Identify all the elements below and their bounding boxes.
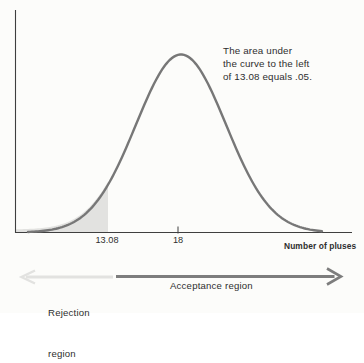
shaded-rejection-area bbox=[16, 182, 108, 232]
x-axis-title: Number of pluses bbox=[284, 241, 356, 251]
rejection-region-label-line1: Rejection bbox=[48, 306, 90, 320]
annotation-line-1: The area under bbox=[223, 44, 312, 57]
annotation-area-note: The area under the curve to the left of … bbox=[223, 44, 312, 84]
annotation-line-3: of 13.08 equals .05. bbox=[223, 70, 312, 83]
acceptance-region-label: Acceptance region bbox=[170, 279, 253, 293]
annotation-line-2: the curve to the left bbox=[223, 57, 312, 70]
x-tick-label-18: 18 bbox=[156, 235, 200, 245]
rejection-region-label: Rejection region bbox=[48, 279, 90, 363]
rejection-region-label-line2: region bbox=[48, 347, 90, 361]
x-tick-label-13.08: 13.08 bbox=[85, 235, 129, 245]
